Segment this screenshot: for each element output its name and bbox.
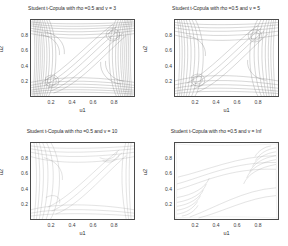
- contour-lines: [175, 20, 278, 96]
- x-axis-label: u1: [30, 230, 135, 236]
- contour-lines: [31, 20, 134, 96]
- contour-panel-v3: Student t-Copula with rho =0.5 and v = 3: [0, 0, 144, 123]
- panel-title: Student t-Copula with rho =0.5 and v = 5: [144, 5, 288, 12]
- figure-grid: Student t-Copula with rho =0.5 and v = 3: [0, 0, 288, 246]
- contour-panel-v5: Student t-Copula with rho =0.5 and v = 5: [144, 0, 288, 123]
- contour-lines: [31, 143, 134, 219]
- x-axis-label: u1: [174, 230, 279, 236]
- y-tick-labels: 0.2 0.4 0.6 0.8: [154, 142, 172, 220]
- x-axis-label: u1: [174, 107, 279, 113]
- panel-title: Student t-Copula with rho =0.5 and v = I…: [144, 128, 288, 135]
- contour-panel-vinf: Student t-Copula with rho =0.5 and v = I…: [144, 123, 288, 246]
- plot-area: [30, 142, 135, 220]
- y-axis-label: u2: [0, 169, 4, 175]
- x-axis-label: u1: [30, 107, 135, 113]
- y-axis-label: u2: [0, 46, 4, 52]
- x-tick-labels: 0.2 0.4 0.6 0.8: [174, 99, 279, 107]
- y-tick-labels: 0.2 0.4 0.6 0.8: [10, 142, 28, 220]
- plot-area: [30, 19, 135, 97]
- x-tick-labels: 0.2 0.4 0.6 0.8: [174, 222, 279, 230]
- panel-title: Student t-Copula with rho =0.5 and v = 1…: [0, 128, 144, 135]
- plot-area: [174, 142, 279, 220]
- plot-area: [174, 19, 279, 97]
- y-axis-label: u2: [142, 46, 148, 52]
- y-tick-labels: 0.2 0.4 0.6 0.8: [154, 19, 172, 97]
- contour-panel-v10: Student t-Copula with rho =0.5 and v = 1…: [0, 123, 144, 246]
- y-tick-labels: 0.2 0.4 0.6 0.8: [10, 19, 28, 97]
- x-tick-labels: 0.2 0.4 0.6 0.8: [30, 99, 135, 107]
- x-tick-labels: 0.2 0.4 0.6 0.8: [30, 222, 135, 230]
- contour-lines: [175, 143, 278, 219]
- panel-title: Student t-Copula with rho =0.5 and v = 3: [0, 5, 144, 12]
- y-axis-label: u2: [142, 169, 148, 175]
